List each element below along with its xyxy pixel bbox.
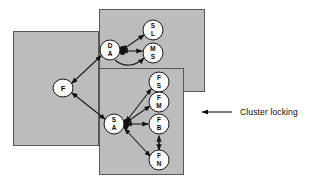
node-fm-label-1: F <box>157 94 161 101</box>
node-fs-label-2: S <box>157 82 162 89</box>
node-fb-label-2: B <box>157 124 162 131</box>
node-ms-label-2: S <box>151 53 156 60</box>
node-sl-label-1: S <box>151 22 156 29</box>
node-fb-label-1: F <box>157 116 161 123</box>
node-sl-label-2: L <box>151 30 155 37</box>
cluster-locking-label: Cluster locking <box>240 107 298 117</box>
node-da-label-1: D <box>108 42 113 49</box>
node-da[interactable]: D A <box>100 40 120 60</box>
node-fm[interactable]: F M <box>149 92 169 112</box>
node-fb[interactable]: F B <box>149 114 169 134</box>
diagram-canvas: F D A S L M S S A F S F <box>0 0 310 188</box>
node-fn-label-1: F <box>157 152 161 159</box>
node-f-label: F <box>61 84 66 93</box>
node-f[interactable]: F <box>53 79 73 97</box>
node-fn[interactable]: F N <box>149 150 169 170</box>
node-sa-label-2: A <box>112 124 117 131</box>
node-ms[interactable]: M S <box>143 43 163 63</box>
node-ms-label-1: M <box>150 45 155 52</box>
node-fn-label-2: N <box>157 160 162 167</box>
node-fm-label-2: M <box>156 102 161 109</box>
node-sa-label-1: S <box>112 116 117 123</box>
diagram-svg: F D A S L M S S A F S F <box>0 0 310 188</box>
node-fs[interactable]: F S <box>149 72 169 92</box>
node-sl[interactable]: S L <box>143 20 163 40</box>
node-da-label-2: A <box>108 50 113 57</box>
node-fs-label-1: F <box>157 74 161 81</box>
node-sa[interactable]: S A <box>104 114 124 134</box>
